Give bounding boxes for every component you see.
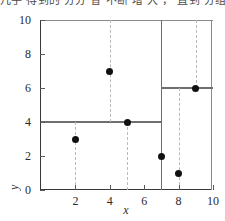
drop-line [75,122,76,190]
scatter-plot-figure: 2468100246810 x y [0,0,225,221]
y-axis-tick [40,122,45,123]
x-axis-tick [75,185,76,190]
y-axis-tick [40,156,45,157]
y-axis-tick [40,88,45,89]
frame-top-edge [41,20,213,21]
y-axis-tick-label: 4 [25,115,31,130]
y-axis-tick-label: 6 [25,81,31,96]
data-point [106,68,113,75]
split-line [41,121,161,122]
x-axis-tick [213,185,214,190]
y-axis-tick-label: 0 [25,183,31,198]
x-axis-tick [144,185,145,190]
split-line [161,87,213,88]
y-axis-tick-label: 2 [25,149,31,164]
y-axis-tick-label: 8 [25,47,31,62]
split-line [161,20,162,190]
x-axis-tick [110,185,111,190]
x-axis-tick [179,185,180,190]
y-axis-tick [40,190,45,191]
data-point [158,153,165,160]
y-axis-tick [40,54,45,55]
data-point [72,136,79,143]
y-axis-tick [40,20,45,21]
frame-right-edge [211,20,212,190]
drop-line [196,20,197,88]
x-axis-label: x [40,203,212,218]
data-point [175,170,182,177]
plot-area: 2468100246810 [40,20,212,190]
data-point [124,119,131,126]
data-point [192,85,199,92]
y-axis-label: y [7,20,22,190]
drop-line [127,122,128,190]
